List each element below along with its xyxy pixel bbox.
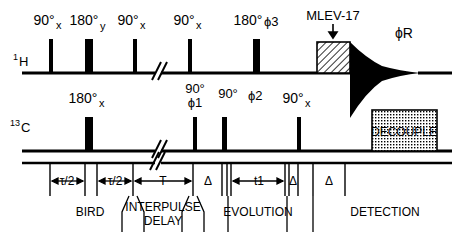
timing-axis: τ/2 τ/2 T Δ t1 Δ Δ <box>22 152 452 196</box>
pulse-90-phi2 <box>222 117 227 151</box>
svg-text:x: x <box>305 97 311 109</box>
pulse-90x-b <box>133 39 137 73</box>
period-interpulse-delay-line2: DELAY <box>144 214 182 228</box>
interval-delta-3: Δ <box>325 174 333 188</box>
svg-text:90°: 90° <box>218 86 238 101</box>
interval-tau-half-2: τ/2 <box>108 174 123 188</box>
svg-text:90°: 90° <box>173 12 194 28</box>
pulse-label-90x-b: 90° x <box>117 12 146 31</box>
interval-arrows <box>52 178 283 184</box>
channel-label-carbon: C <box>21 120 30 135</box>
channel-label-proton: H <box>19 54 28 69</box>
timeline-break-carbon <box>152 140 167 158</box>
pulse-label-90-phi2: 90° ϕ2 <box>218 86 262 103</box>
svg-text:x: x <box>196 19 202 31</box>
svg-text:x: x <box>99 97 105 109</box>
pulse-label-180x: 180° x <box>69 90 105 109</box>
pulse-90x-c <box>188 39 192 73</box>
svg-text:ϕ1: ϕ1 <box>188 95 203 110</box>
mlev-17-label: MLEV-17 <box>306 8 359 23</box>
fid-signal: ϕR <box>350 25 420 118</box>
timeline-break-proton <box>152 62 167 80</box>
svg-text:180°: 180° <box>70 12 99 28</box>
interval-t1: t1 <box>254 174 264 188</box>
pulse-label-90-phi1: 90° ϕ1 <box>185 81 205 110</box>
interval-T: T <box>159 174 167 188</box>
interval-tau-half-1: τ/2 <box>60 174 75 188</box>
svg-text:x: x <box>140 19 146 31</box>
fid-phase-label: ϕR <box>395 25 413 41</box>
pulse-90x-d <box>297 117 301 151</box>
pulse-label-90x-d: 90° x <box>282 90 311 109</box>
channel-label-carbon-superscript: 13 <box>10 118 20 128</box>
svg-text:y: y <box>100 20 106 32</box>
svg-text:90°: 90° <box>282 90 303 106</box>
svg-text:90°: 90° <box>117 12 138 28</box>
axis-ticks <box>50 163 345 196</box>
pulse-label-90x-a: 90° x <box>33 12 62 31</box>
decouple-label: DECOUPLE <box>371 125 437 139</box>
pulse-90-phi1 <box>193 117 197 151</box>
svg-text:x: x <box>56 19 62 31</box>
pulse-label-180y: 180° y <box>70 12 106 32</box>
pulse-sequence-figure: 1 H 90° x 180° y 90° x 90° x 180° ϕ3 <box>0 0 457 240</box>
svg-text:180°: 180° <box>69 90 98 106</box>
decouple-block: DECOUPLE <box>371 110 437 151</box>
timeline-break-axis <box>150 152 165 170</box>
pulse-180x <box>85 117 93 151</box>
interval-delta-2: Δ <box>289 174 297 188</box>
svg-text:180°: 180° <box>234 12 263 28</box>
interval-delta-1: Δ <box>204 174 212 188</box>
mlev-17-arrow-icon <box>329 24 337 38</box>
period-detection: DETECTION <box>350 205 419 219</box>
svg-text:90°: 90° <box>185 81 205 96</box>
svg-text:ϕ3: ϕ3 <box>264 14 279 29</box>
period-interpulse-delay-line1: INTERPULSE <box>125 200 200 214</box>
period-brackets: BIRD INTERPULSE DELAY EVOLUTION DETECTIO… <box>76 196 420 232</box>
pulse-180y <box>85 39 93 73</box>
period-evolution: EVOLUTION <box>223 205 292 219</box>
pulse-label-180-phi3: 180° ϕ3 <box>234 12 279 29</box>
pulse-90x-a <box>49 39 53 73</box>
pulse-label-90x-c: 90° x <box>173 12 202 31</box>
svg-text:90°: 90° <box>33 12 54 28</box>
svg-text:ϕ2: ϕ2 <box>248 88 263 103</box>
period-bird: BIRD <box>76 205 105 219</box>
channel-carbon: 13 C 180° x 90° ϕ1 90° ϕ2 90° x DECOUPLE <box>10 81 452 158</box>
pulse-180-phi3 <box>253 39 260 73</box>
diagram-canvas: 1 H 90° x 180° y 90° x 90° x 180° ϕ3 <box>0 0 457 240</box>
channel-label-proton-superscript: 1 <box>13 52 18 62</box>
